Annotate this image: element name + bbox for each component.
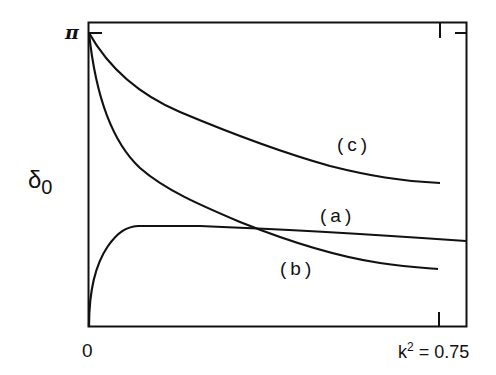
y-axis-label: δ0 xyxy=(28,166,52,194)
x-zero-label: 0 xyxy=(82,340,93,362)
plot-area xyxy=(0,0,496,375)
curve-a-label: (a) xyxy=(320,205,355,227)
k-symbol: k xyxy=(398,342,407,362)
k-value: = 0.75 xyxy=(414,342,470,362)
delta-symbol: δ xyxy=(28,166,41,193)
pi-label: π xyxy=(65,21,79,43)
curve-c xyxy=(89,33,440,183)
k-exponent: 2 xyxy=(407,340,414,354)
delta-subscript: 0 xyxy=(41,176,52,198)
curve-c-label: (c) xyxy=(337,134,371,156)
curve-b-label: (b) xyxy=(280,258,315,280)
curve-b xyxy=(89,33,438,269)
curve-a xyxy=(89,226,466,326)
plot-frame xyxy=(89,23,467,327)
x-end-label: k2 = 0.75 xyxy=(398,340,469,363)
